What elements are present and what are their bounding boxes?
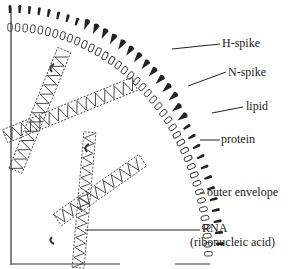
label-lipid: lipid — [246, 100, 268, 113]
label-outer-envelope: outer envelope — [207, 186, 278, 199]
rna-strands — [2, 47, 146, 268]
label-h-spike: H-spike — [222, 37, 260, 50]
envelope-layer — [8, 23, 213, 256]
leader-lines — [85, 44, 243, 230]
label-rna-full: (ribonucleic acid) — [190, 236, 275, 249]
spike-layer — [9, 5, 225, 246]
label-protein: protein — [221, 133, 255, 146]
virus-diagram: H-spike N-spike lipid protein outer enve… — [0, 0, 293, 269]
label-rna: RNA — [202, 222, 227, 235]
label-n-spike: N-spike — [228, 66, 266, 79]
